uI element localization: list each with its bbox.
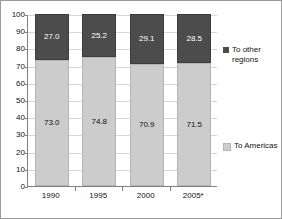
y-axis-tick-label: 80 [3, 45, 25, 53]
bar-segment-to-americas[interactable]: 74.8 [82, 57, 116, 186]
bar-segment-to-americas[interactable]: 71.5 [177, 63, 211, 186]
legend-label-to-other-regions: To other regions [232, 45, 279, 65]
bar-column[interactable]: 73.027.0 [35, 14, 69, 186]
plot-area: 73.027.074.825.270.929.171.528.5 [27, 15, 217, 187]
y-axis-tick-label: 30 [3, 131, 25, 139]
bar-segment-to-other-regions[interactable]: 28.5 [177, 14, 211, 63]
bar-value-label: 70.9 [139, 121, 155, 129]
legend-swatch-to-americas [223, 143, 231, 151]
y-axis-tick [25, 135, 28, 136]
bar-value-label: 27.0 [44, 33, 60, 41]
y-axis-tick-label: 0 [3, 183, 25, 191]
y-axis-tick-label: 40 [3, 114, 25, 122]
bar-column[interactable]: 74.825.2 [82, 14, 116, 186]
y-axis-tick-label: 50 [3, 97, 25, 105]
x-axis-tick-label: 1995 [76, 191, 120, 200]
x-axis-tick-label: 1990 [29, 191, 73, 200]
y-axis-tick [25, 153, 28, 154]
bar-value-label: 74.8 [91, 118, 107, 126]
x-axis-tick-label: 2005* [171, 191, 215, 200]
y-axis-tick [25, 187, 28, 188]
y-axis-tick [25, 32, 28, 33]
y-axis-tick [25, 84, 28, 85]
y-axis-tick-label: 90 [3, 28, 25, 36]
y-axis-tick [25, 170, 28, 171]
y-axis: 1009080706050403020100 [1, 15, 25, 187]
legend-swatch-to-other-regions [223, 47, 229, 53]
bar-segment-to-other-regions[interactable]: 25.2 [82, 14, 116, 57]
bar-segment-to-americas[interactable]: 70.9 [130, 64, 164, 186]
y-axis-tick-label: 100 [3, 11, 25, 19]
y-axis-tick-label: 60 [3, 80, 25, 88]
bar-column[interactable]: 70.929.1 [130, 14, 164, 186]
bar-value-label: 73.0 [44, 119, 60, 127]
y-axis-tick [25, 101, 28, 102]
legend: To other regions To Americas [223, 15, 279, 187]
y-axis-tick-label: 70 [3, 63, 25, 71]
bar-column[interactable]: 71.528.5 [177, 14, 211, 186]
y-axis-tick [25, 67, 28, 68]
legend-item-to-americas[interactable]: To Americas [223, 141, 279, 151]
chart-container: 1009080706050403020100 73.027.074.825.27… [0, 0, 282, 219]
y-axis-tick [25, 49, 28, 50]
bar-value-label: 71.5 [186, 121, 202, 129]
legend-label-to-americas: To Americas [234, 141, 278, 151]
bar-value-label: 25.2 [91, 32, 107, 40]
bar-value-label: 28.5 [186, 35, 202, 43]
y-axis-tick [25, 118, 28, 119]
y-axis-tick-label: 10 [3, 166, 25, 174]
bar-segment-to-other-regions[interactable]: 29.1 [130, 14, 164, 64]
bar-value-label: 29.1 [139, 35, 155, 43]
bar-segment-to-other-regions[interactable]: 27.0 [35, 14, 69, 60]
y-axis-tick-label: 20 [3, 149, 25, 157]
x-axis-tick-label: 2000 [124, 191, 168, 200]
legend-item-to-other-regions[interactable]: To other regions [223, 45, 279, 65]
y-axis-tick [25, 15, 28, 16]
x-axis: 1990199520002005* [27, 191, 217, 205]
bar-segment-to-americas[interactable]: 73.0 [35, 60, 69, 186]
